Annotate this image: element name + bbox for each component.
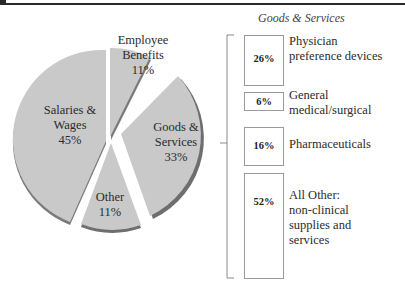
pct-pharma: 16% <box>245 140 283 151</box>
desc-general-line2: medical/surgical <box>289 103 371 118</box>
desc-physician-line1: Physician <box>289 34 382 49</box>
breakdown-box-all-other: 52% <box>244 173 284 279</box>
pct-general: 6% <box>245 96 283 107</box>
pct-physician: 26% <box>245 53 283 64</box>
desc-pharma-line1: Pharmaceuticals <box>289 137 371 152</box>
desc-all-other-line4: services <box>289 233 351 248</box>
desc-all-other-line1: All Other: <box>289 188 351 203</box>
pct-all-other: 52% <box>245 196 283 207</box>
desc-all-other: All Other: non-clinical supplies and ser… <box>289 188 351 248</box>
desc-all-other-line2: non-clinical <box>289 203 351 218</box>
breakdown-box-pharma: 16% <box>244 127 284 166</box>
breakdown-box-physician: 26% <box>244 35 284 86</box>
desc-general: General medical/surgical <box>289 88 371 118</box>
desc-physician: Physician preference devices <box>289 34 382 64</box>
desc-physician-line2: preference devices <box>289 49 382 64</box>
desc-pharma: Pharmaceuticals <box>289 137 371 152</box>
desc-general-line1: General <box>289 88 371 103</box>
breakdown-box-general: 6% <box>244 92 284 111</box>
desc-all-other-line3: supplies and <box>289 218 351 233</box>
